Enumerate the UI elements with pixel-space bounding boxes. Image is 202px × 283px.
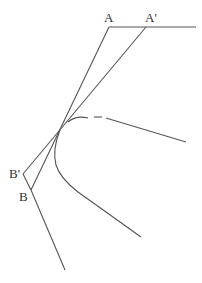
- lower-line-from-B: [31, 190, 65, 270]
- diagram-canvas: A A' B' B: [0, 0, 202, 283]
- curve-lower-branch: [55, 130, 141, 237]
- label-B-prime: B': [9, 166, 20, 181]
- label-A: A: [104, 10, 114, 25]
- curve-upper-branch-start: [68, 117, 88, 122]
- segment-Bprime-B: [23, 174, 31, 190]
- label-A-prime: A': [145, 10, 157, 25]
- label-B: B: [19, 189, 28, 204]
- curve-upper-branch: [106, 118, 186, 142]
- line-A-B: [31, 27, 109, 190]
- line-Aprime-Bprime: [23, 27, 146, 174]
